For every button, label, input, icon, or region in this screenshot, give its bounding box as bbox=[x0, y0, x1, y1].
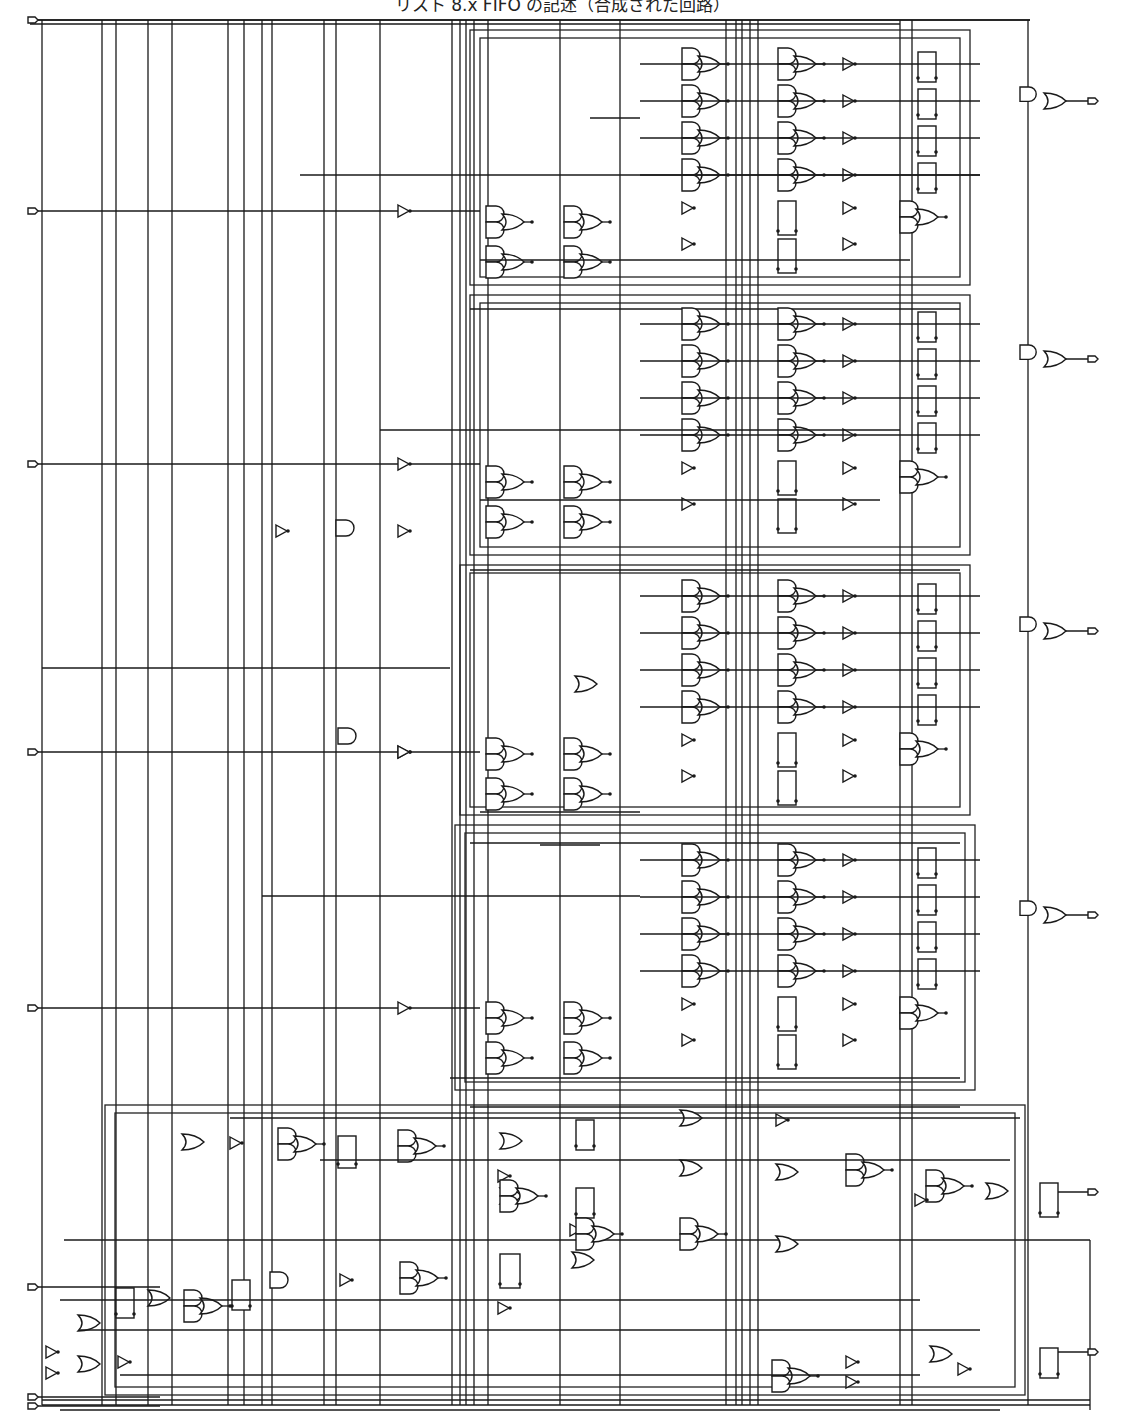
junction-dot bbox=[530, 792, 534, 796]
junction-dot bbox=[934, 645, 938, 649]
junction-dot bbox=[1056, 1372, 1060, 1376]
flip-flop-icon bbox=[918, 922, 936, 952]
junction-dot bbox=[944, 215, 948, 219]
or-gate-icon bbox=[416, 1270, 438, 1286]
flip-flop-icon bbox=[232, 1280, 250, 1310]
or-gate-icon bbox=[78, 1356, 100, 1372]
or-gate-icon bbox=[580, 1010, 602, 1026]
buffer-icon bbox=[46, 1367, 57, 1379]
junction-dot bbox=[934, 113, 938, 117]
flip-flop-icon bbox=[576, 1188, 594, 1218]
input-port-icon bbox=[28, 17, 38, 23]
junction-dot bbox=[934, 608, 938, 612]
junction-dot bbox=[336, 1162, 340, 1166]
junction-dot bbox=[518, 1282, 522, 1286]
and-gate-icon bbox=[1020, 901, 1036, 915]
junction-dot bbox=[620, 1232, 624, 1236]
input-port-icon bbox=[28, 1394, 38, 1400]
or-gate-icon bbox=[502, 786, 524, 802]
buffer-icon bbox=[776, 1114, 787, 1126]
input-port-icon bbox=[28, 1005, 38, 1011]
junction-dot bbox=[776, 761, 780, 765]
junction-dot bbox=[692, 1038, 696, 1042]
output-port-icon bbox=[1088, 1349, 1098, 1355]
or-gate-icon bbox=[1044, 907, 1066, 923]
junction-dot bbox=[508, 1306, 512, 1310]
flip-flop-icon bbox=[1040, 1183, 1058, 1217]
junction-dot bbox=[934, 187, 938, 191]
flip-flop-icon bbox=[778, 771, 796, 805]
or-gate-icon bbox=[572, 1252, 594, 1268]
or-gate-icon bbox=[575, 676, 597, 692]
block-inner-bit0 bbox=[465, 833, 965, 1082]
junction-dot bbox=[970, 1184, 974, 1188]
flip-flop-icon bbox=[918, 584, 936, 614]
junction-dot bbox=[934, 983, 938, 987]
flip-flop-icon bbox=[778, 997, 796, 1031]
junction-dot bbox=[530, 260, 534, 264]
block-inner-bit1 bbox=[470, 573, 960, 807]
junction-dot bbox=[856, 1360, 860, 1364]
junction-dot bbox=[128, 1360, 132, 1364]
block-bit0 bbox=[455, 825, 975, 1090]
or-gate-icon bbox=[916, 1005, 938, 1021]
junction-dot bbox=[794, 761, 798, 765]
junction-dot bbox=[916, 645, 920, 649]
junction-dot bbox=[786, 1118, 790, 1122]
buffer-icon bbox=[230, 1137, 241, 1149]
buffer-icon bbox=[118, 1356, 129, 1368]
block-inner-bit3 bbox=[480, 38, 960, 277]
or-gate-icon bbox=[916, 469, 938, 485]
junction-dot bbox=[916, 336, 920, 340]
junction-dot bbox=[776, 799, 780, 803]
buffer-icon bbox=[398, 525, 409, 537]
junction-dot bbox=[794, 799, 798, 803]
block-inner-control bbox=[115, 1113, 1015, 1387]
buffer-icon bbox=[843, 998, 854, 1010]
flip-flop-icon bbox=[778, 733, 796, 767]
junction-dot bbox=[608, 520, 612, 524]
junction-dot bbox=[408, 462, 412, 466]
flip-flop-icon bbox=[918, 386, 936, 416]
junction-dot bbox=[934, 909, 938, 913]
or-gate-icon bbox=[414, 1138, 436, 1154]
buffer-icon bbox=[958, 1363, 969, 1375]
junction-dot bbox=[776, 229, 780, 233]
or-gate-icon bbox=[182, 1134, 204, 1150]
flip-flop-icon bbox=[918, 658, 936, 688]
output-port-icon bbox=[1088, 356, 1098, 362]
junction-dot bbox=[925, 1198, 929, 1202]
or-gate-icon bbox=[516, 1188, 538, 1204]
output-port-icon bbox=[1088, 1189, 1098, 1195]
buffer-icon bbox=[843, 238, 854, 250]
junction-dot bbox=[934, 336, 938, 340]
junction-dot bbox=[916, 410, 920, 414]
or-gate-icon bbox=[1044, 93, 1066, 109]
junction-dot bbox=[608, 480, 612, 484]
junction-dot bbox=[794, 267, 798, 271]
buffer-icon bbox=[340, 1274, 351, 1286]
or-gate-icon bbox=[862, 1162, 884, 1178]
junction-dot bbox=[692, 774, 696, 778]
flip-flop-icon bbox=[918, 621, 936, 651]
junction-dot bbox=[56, 1371, 60, 1375]
junction-dot bbox=[350, 1278, 354, 1282]
or-gate-icon bbox=[580, 1050, 602, 1066]
buffer-icon bbox=[682, 202, 693, 214]
junction-dot bbox=[794, 229, 798, 233]
or-gate-icon bbox=[580, 746, 602, 762]
junction-dot bbox=[508, 1174, 512, 1178]
junction-dot bbox=[240, 1141, 244, 1145]
junction-dot bbox=[944, 1011, 948, 1015]
junction-dot bbox=[692, 466, 696, 470]
or-gate-icon bbox=[580, 786, 602, 802]
junction-dot bbox=[498, 1282, 502, 1286]
junction-dot bbox=[944, 475, 948, 479]
junction-dot bbox=[692, 206, 696, 210]
junction-dot bbox=[934, 410, 938, 414]
or-gate-icon bbox=[776, 1236, 798, 1252]
flip-flop-icon bbox=[918, 89, 936, 119]
or-gate-icon bbox=[502, 254, 524, 270]
junction-dot bbox=[1038, 1372, 1042, 1376]
junction-dot bbox=[794, 527, 798, 531]
